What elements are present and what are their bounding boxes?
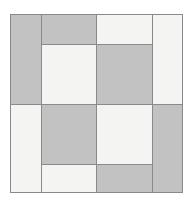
cell-c4-r2	[152, 104, 182, 192]
cell-c1-r1	[10, 14, 41, 104]
cell-c3-r1	[96, 14, 152, 44]
cell-c3-r3	[96, 104, 152, 164]
cell-c2-r1	[41, 14, 96, 44]
cell-c3-r4	[96, 164, 152, 192]
cell-c1-r2	[10, 104, 41, 192]
cell-c2-r2	[41, 44, 96, 104]
pattern-figure	[0, 0, 192, 202]
cell-c2-r4	[41, 164, 96, 192]
cell-c4-r1	[152, 14, 182, 104]
pattern-canvas	[0, 0, 192, 202]
cell-c3-r2	[96, 44, 152, 104]
cell-c2-r3	[41, 104, 96, 164]
